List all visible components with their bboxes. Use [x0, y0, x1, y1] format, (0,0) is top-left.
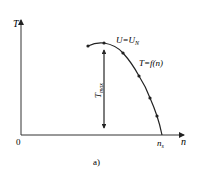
- torque-speed-diagram: T n 0 U=UN T=f(n) Tmax ns a): [0, 0, 200, 173]
- function-label: T=f(n): [139, 58, 163, 68]
- x-axis-label: n: [181, 136, 186, 147]
- origin-label: 0: [16, 137, 21, 147]
- tmax-label: Tmax: [93, 83, 104, 98]
- ns-label: ns: [157, 138, 165, 149]
- y-axis-label: T: [13, 18, 20, 29]
- voltage-label: U=UN: [116, 35, 140, 46]
- curve-points: [86, 41, 158, 117]
- figure-caption: a): [93, 157, 100, 167]
